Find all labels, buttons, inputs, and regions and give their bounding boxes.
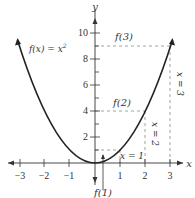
axes: [8, 10, 183, 185]
x3-label: x = 3: [175, 72, 185, 96]
function-label: f(x) = x2: [28, 42, 67, 54]
x-tick-label: 1: [118, 170, 123, 181]
x-axis-arrow-left-icon: [8, 161, 14, 166]
y-axis-arrow-up-icon: [93, 18, 98, 24]
x1-label: x = 1: [120, 151, 144, 161]
parabola-diagram: −3 −2 −1 1 2 3 2 4 6 8 10 x y f(x) = x2 …: [0, 0, 195, 198]
x-axis-label: x: [186, 158, 192, 169]
x-tick-label: −1: [64, 170, 75, 181]
x-tick-label: −3: [15, 170, 26, 181]
curve-arrow-right-icon: [169, 38, 175, 46]
y-tick-label: 8: [83, 53, 88, 64]
f2-label: f(2): [112, 97, 131, 108]
y-tick-label: 4: [83, 105, 88, 116]
x-tick-label: 3: [168, 170, 173, 181]
f3-label: f(3): [114, 31, 133, 42]
y-tick-label: 2: [83, 131, 88, 142]
y-axis-arrow-down-icon: [93, 177, 98, 183]
f1-label: f(1): [93, 187, 112, 198]
y-axis-label: y: [91, 1, 98, 12]
f1-pointer-arrow-icon: [101, 154, 105, 159]
y-tick-label: 10: [78, 27, 88, 38]
x2-label: x = 2: [150, 122, 160, 146]
curve-arrow-left-icon: [15, 38, 21, 46]
y-tick-label: 6: [83, 79, 88, 90]
x-tick-label: 2: [143, 170, 148, 181]
x-tick-label: −2: [39, 170, 50, 181]
x-axis-arrow-right-icon: [177, 161, 183, 166]
